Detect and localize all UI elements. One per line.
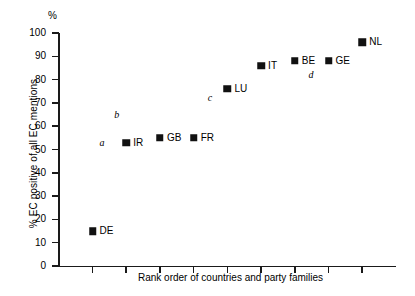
x-axis-title: Rank order of countries and party famili… — [58, 272, 403, 283]
y-axis-tick — [52, 172, 59, 174]
data-point-marker — [257, 62, 265, 70]
data-point-label: IR — [133, 138, 143, 148]
y-axis-tick — [52, 219, 59, 221]
chart-container: % % EC positive of all EC mentions 01020… — [0, 0, 415, 296]
data-point-marker — [89, 227, 97, 235]
data-point-marker — [122, 139, 130, 147]
data-point-label: BE — [302, 56, 315, 66]
y-axis-tick — [52, 265, 59, 267]
y-axis-tick — [52, 242, 59, 244]
y-axis-tick — [52, 32, 59, 34]
data-point-label: DE — [100, 226, 114, 236]
y-axis-tick-label: 20 — [0, 214, 46, 224]
y-axis-tick — [52, 102, 59, 104]
data-point-label: IT — [268, 61, 277, 71]
y-axis-tick — [52, 125, 59, 127]
data-point-marker — [325, 57, 333, 65]
y-axis-tick-label: 80 — [0, 75, 46, 85]
y-axis-tick-label: 90 — [0, 51, 46, 61]
data-point-marker — [359, 39, 367, 47]
y-axis-tick — [52, 56, 59, 58]
data-point-marker — [224, 85, 232, 93]
data-point-label: FR — [201, 133, 214, 143]
y-axis-tick-label: 0 — [0, 261, 46, 271]
y-axis-tick-label: 60 — [0, 121, 46, 131]
data-point-label: GB — [167, 133, 181, 143]
data-point-label: LU — [234, 84, 247, 94]
y-axis-tick — [52, 149, 59, 151]
data-point-marker — [291, 57, 299, 65]
y-axis-tick-label: 40 — [0, 168, 46, 178]
y-axis-tick — [52, 79, 59, 81]
y-axis-tick — [52, 195, 59, 197]
y-axis-tick-label: 10 — [0, 238, 46, 248]
data-point-label: GE — [336, 56, 350, 66]
chart-annotation: d — [309, 70, 314, 80]
y-axis-unit-label: % — [48, 10, 57, 21]
chart-annotation: a — [99, 138, 104, 148]
y-axis-tick-label: 100 — [0, 28, 46, 38]
y-axis-tick-label: 70 — [0, 98, 46, 108]
y-axis-tick-label: 50 — [0, 145, 46, 155]
chart-annotation: b — [114, 110, 119, 120]
data-point-marker — [190, 134, 198, 142]
y-axis-tick-label: 30 — [0, 191, 46, 201]
chart-annotation: c — [208, 93, 212, 103]
data-point-label: NL — [369, 37, 382, 47]
data-point-marker — [156, 134, 164, 142]
